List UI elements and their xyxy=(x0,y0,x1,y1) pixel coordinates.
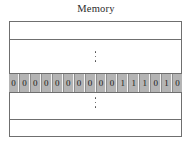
memory-box: 0 0 0 0 0 0 0 0 0 0 1 1 1 0 1 0 xyxy=(9,21,182,137)
vertical-ellipsis-icon xyxy=(95,97,97,108)
memory-figure: Memory 0 0 0 0 0 0 0 0 0 0 1 1 1 0 1 xyxy=(0,0,192,146)
memory-row-bottom xyxy=(10,120,181,136)
memory-ellipsis-lower xyxy=(10,86,181,119)
figure-title: Memory xyxy=(0,2,192,15)
memory-ellipsis-upper xyxy=(10,40,181,73)
memory-row-top xyxy=(10,22,181,39)
vertical-ellipsis-icon xyxy=(95,51,97,62)
